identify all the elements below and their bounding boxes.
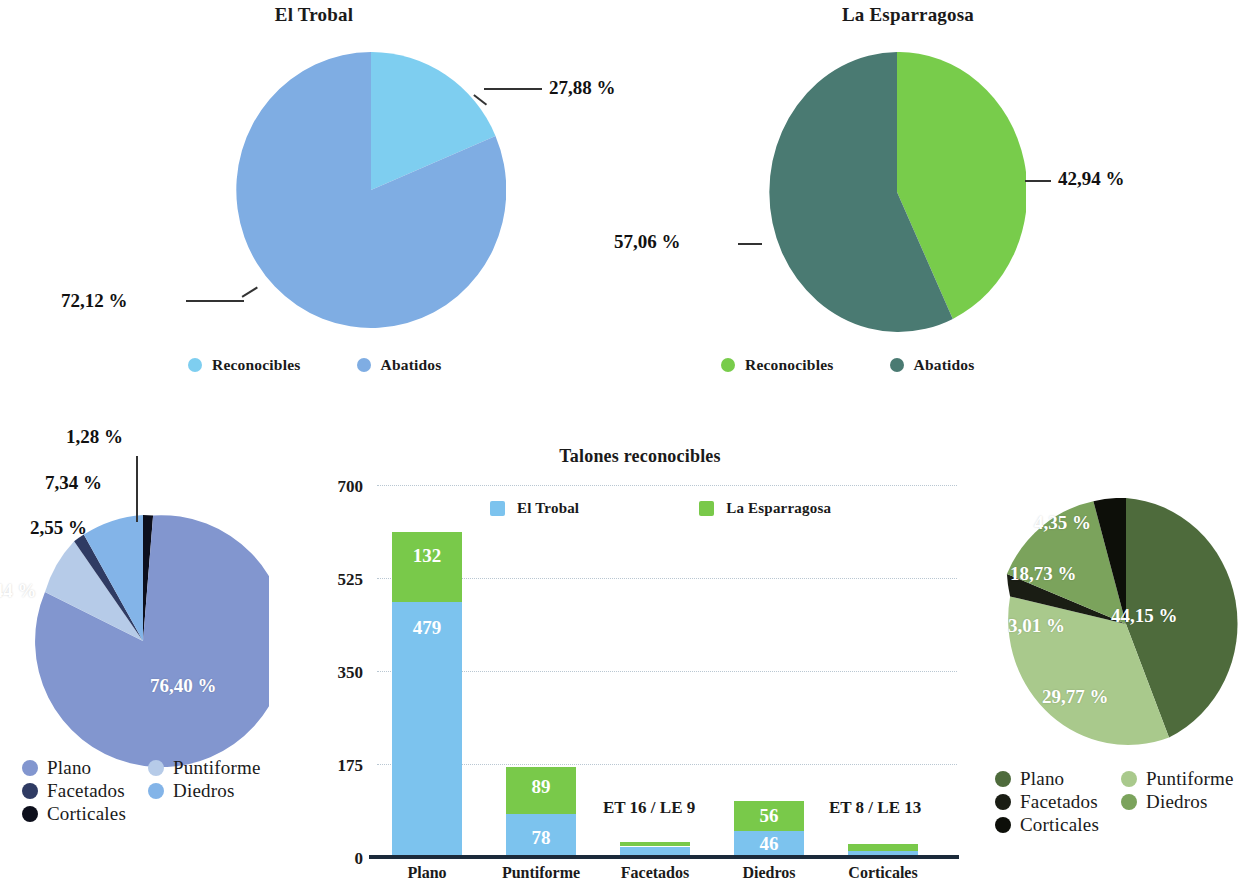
el-trobal-leader-reconocibles [484,88,542,90]
legend-swatch-diedros [1121,794,1137,810]
le-types-pct-facetados: 3,01 % [1008,615,1065,637]
legend-label-plano: Plano [47,757,91,779]
legend-item-puntiforme: Puntiforme [1121,768,1234,790]
bar-value-plano-el-trobal: 479 [413,618,442,637]
et-types-pie-svg [17,515,269,767]
bar-legend-swatch-el-trobal [490,501,505,516]
bar-diedros-el-trobal[interactable]: 46 [734,831,804,855]
le-types-pct-corticales: 4,35 % [1034,512,1091,534]
legend-label-puntiforme: Puntiforme [173,757,261,779]
la-esparragosa-pie-svg [768,52,1026,332]
la-esparragosa-legend: Reconocibles Abatidos [721,356,975,374]
ytick-700: 700 [315,477,363,497]
le-types-legend: Plano Puntiforme Facetados Diedros Corti… [995,768,1234,836]
legend-item-facetados: Facetados [995,791,1099,813]
bar-chart-title: Talones reconocibles [315,446,965,467]
panel-talones-reconocibles: Talones reconocibles 700 525 350 175 0 E… [315,440,965,882]
legend-item-corticales: Corticales [22,803,126,825]
bar-puntiforme-la-esparragosa[interactable]: 89 [506,767,576,814]
bar-annotation-facetados: ET 16 / LE 9 [603,798,695,818]
legend-swatch-corticales [22,806,38,822]
legend-swatch-diedros [148,783,164,799]
ytick-525: 525 [315,570,363,590]
bar-value-diedros-el-trobal: 46 [760,834,779,853]
xtick-puntiforme: Puntiforme [496,864,586,882]
legend-label-facetados: Facetados [1020,791,1098,813]
el-trobal-pct-abatidos: 72,12 % [61,290,128,312]
et-types-pct-plano: 76,40 % [150,675,217,697]
la-esparragosa-leader-abatidos [738,243,762,245]
la-esparragosa-pct-reconocibles: 42,94 % [1058,168,1125,190]
le-types-pct-plano: 44,15 % [1111,605,1178,627]
la-esparragosa-title: La Esparragosa [628,4,1188,26]
bar-annotation-corticales: ET 8 / LE 13 [829,798,921,818]
gridline-700 [377,485,957,486]
legend-label-corticales: Corticales [47,803,126,825]
panel-la-esparragosa: La Esparragosa 42,94 % 57,06 % Reconocib… [628,0,1257,400]
legend-swatch-abatidos [890,358,904,372]
la-esparragosa-pie [768,52,1026,332]
et-types-leader-corticales [136,456,138,522]
legend-swatch-facetados [22,783,38,799]
bar-chart-legend: El Trobal La Esparragosa [490,500,831,517]
et-types-pct-puntiforme: 12,44 % [0,580,37,602]
el-trobal-pct-reconocibles: 27,88 % [549,77,616,99]
bar-corticales-el-trobal[interactable] [848,851,918,855]
legend-item-reconocibles: Reconocibles [188,356,301,374]
legend-item-puntiforme: Puntiforme [148,757,261,779]
legend-swatch-plano [995,771,1011,787]
bar-facetados-la-esparragosa[interactable] [620,842,690,847]
legend-item-reconocibles: Reconocibles [721,356,834,374]
gridline-525 [377,578,957,579]
et-types-pie [17,515,269,767]
el-trobal-leader-abatidos [186,300,244,302]
bar-value-puntiforme-el-trobal: 78 [532,828,551,847]
et-types-legend: Plano Puntiforme Facetados Diedros Corti… [22,757,261,825]
et-types-pct-diedros: 7,34 % [45,472,102,494]
et-types-pct-facetados: 2,55 % [30,517,87,539]
bar-legend-label-el-trobal: El Trobal [517,500,579,517]
ytick-350: 350 [315,663,363,683]
legend-swatch-abatidos [357,358,371,372]
legend-item-diedros: Diedros [1121,791,1234,813]
panel-et-types: 1,28 % 7,34 % 2,55 % 12,44 % 76,40 % Pla… [0,420,320,882]
el-trobal-title: El Trobal [0,4,628,26]
legend-swatch-plano [22,760,38,776]
legend-label-facetados: Facetados [47,780,125,802]
la-esparragosa-leader-reconocibles [1025,180,1051,182]
legend-item-abatidos: Abatidos [357,356,442,374]
bar-diedros-la-esparragosa[interactable]: 56 [734,801,804,831]
bar-facetados-el-trobal[interactable] [620,847,690,856]
legend-label-reconocibles: Reconocibles [212,356,301,374]
legend-label-abatidos: Abatidos [381,356,442,374]
bar-value-diedros-la-esparragosa: 56 [760,806,779,825]
x-axis-line [369,855,959,859]
panel-le-types: 4,35 % 18,73 % 3,01 % 29,77 % 44,15 % Pl… [950,490,1257,882]
le-types-pct-puntiforme: 29,77 % [1042,686,1109,708]
bar-corticales-la-esparragosa[interactable] [848,844,918,851]
xtick-diedros: Diedros [734,864,804,882]
ytick-0: 0 [315,849,363,869]
bar-puntiforme-el-trobal[interactable]: 78 [506,814,576,855]
el-trobal-pie-svg [236,52,506,328]
legend-item-abatidos: Abatidos [890,356,975,374]
xtick-facetados: Facetados [610,864,700,882]
bar-plano-la-esparragosa[interactable]: 132 [392,532,462,602]
et-types-pct-corticales: 1,28 % [66,426,123,448]
legend-swatch-facetados [995,794,1011,810]
bar-legend-swatch-la-esparragosa [699,501,714,516]
legend-swatch-reconocibles [188,358,202,372]
la-esparragosa-pct-abatidos: 57,06 % [614,231,681,253]
legend-item-diedros: Diedros [148,780,261,802]
legend-label-abatidos: Abatidos [914,356,975,374]
legend-item-corticales: Corticales [995,814,1099,836]
legend-swatch-puntiforme [148,760,164,776]
el-trobal-pie [236,52,506,328]
bar-legend-item-la-esparragosa: La Esparragosa [699,500,831,517]
bar-plano-el-trobal[interactable]: 479 [392,602,462,855]
legend-swatch-corticales [995,817,1011,833]
legend-item-plano: Plano [22,757,126,779]
legend-swatch-reconocibles [721,358,735,372]
legend-label-puntiforme: Puntiforme [1146,768,1234,790]
legend-label-diedros: Diedros [1146,791,1208,813]
